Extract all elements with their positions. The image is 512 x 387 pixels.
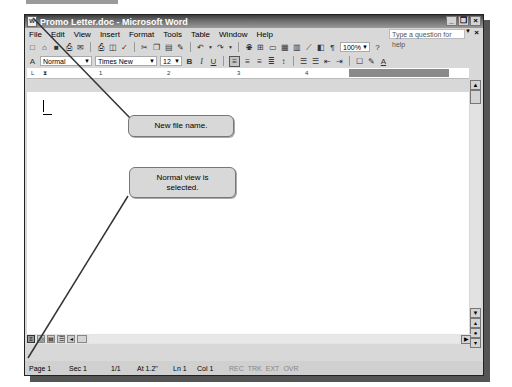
callout-new-file-name: New file name. — [128, 115, 234, 137]
callout-lines — [0, 0, 512, 387]
callout-text: New file name. — [155, 121, 208, 131]
callout-text: Normal view is selected. — [148, 173, 217, 193]
callout-normal-view: Normal view is selected. — [129, 167, 236, 198]
